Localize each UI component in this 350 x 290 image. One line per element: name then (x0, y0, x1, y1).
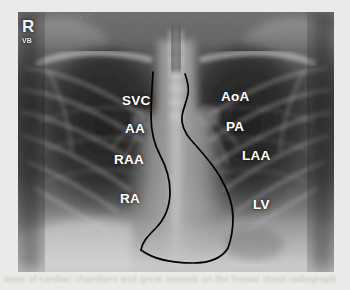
film-header-text: PA CHEST (58, 13, 94, 19)
page-caption: ation of cardiac chambers and great vess… (0, 272, 350, 290)
chest-radiograph: PA CHEST R VB SVC AA RAA RA AoA PA LAA L… (18, 12, 334, 272)
xray-canvas (18, 12, 334, 272)
caption-line-1: ation of cardiac chambers and great vess… (4, 273, 336, 285)
scanned-page: PA CHEST R VB SVC AA RAA RA AoA PA LAA L… (0, 0, 350, 290)
